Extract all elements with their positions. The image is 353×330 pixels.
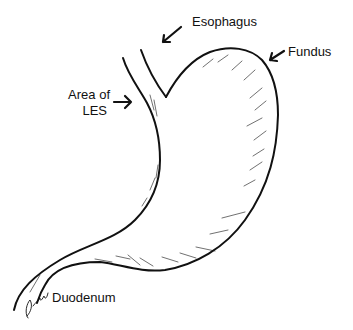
arrows bbox=[114, 27, 284, 108]
label-fundus: Fundus bbox=[288, 44, 331, 59]
esophagus-right-wall bbox=[141, 50, 166, 97]
les-arrow bbox=[114, 96, 131, 108]
label-duodenum: Duodenum bbox=[52, 290, 116, 305]
label-les-line1: Area of bbox=[62, 87, 110, 102]
signature bbox=[26, 293, 48, 318]
label-esophagus: Esophagus bbox=[192, 14, 257, 29]
fundus-arrow bbox=[270, 51, 284, 61]
label-les-line2: LES bbox=[62, 103, 107, 118]
esophagus-arrow bbox=[163, 27, 181, 42]
